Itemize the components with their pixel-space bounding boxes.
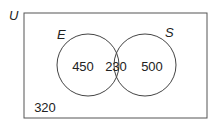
venn-diagram: U E S 450 230 500 320 xyxy=(0,0,218,128)
intersection-count: 230 xyxy=(105,59,127,74)
set-e-label: E xyxy=(57,27,66,42)
set-s-label: S xyxy=(165,25,174,40)
universe-label: U xyxy=(9,8,19,23)
outside-count: 320 xyxy=(34,100,56,115)
s-only-count: 500 xyxy=(141,59,163,74)
venn-svg: U E S 450 230 500 320 xyxy=(0,0,218,128)
e-only-count: 450 xyxy=(72,59,94,74)
